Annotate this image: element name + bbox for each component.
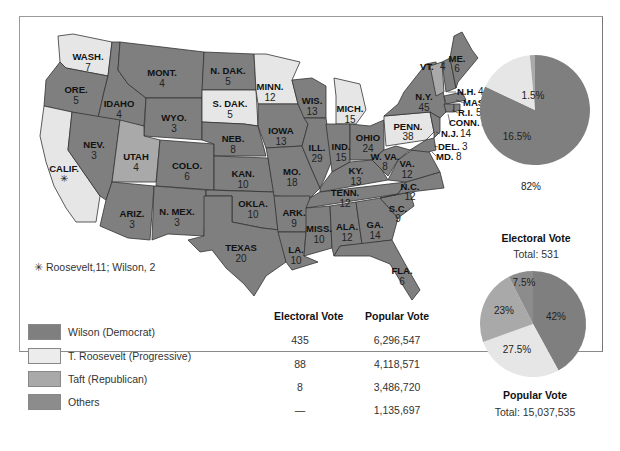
svg-text:N.Y.: N.Y. — [415, 91, 432, 102]
legend-item-wilson: Wilson (Democrat) — [28, 324, 208, 342]
legend-item-others: Others — [28, 394, 208, 412]
svg-text:13: 13 — [350, 176, 362, 187]
svg-text:27.5%: 27.5% — [503, 344, 531, 355]
svg-text:KAN.: KAN. — [231, 168, 254, 179]
popular-others: 1,135,697 — [362, 404, 432, 416]
legend-label: Others — [68, 396, 100, 408]
svg-text:5: 5 — [227, 109, 233, 120]
legend-label: Taft (Republican) — [68, 373, 147, 385]
svg-text:8: 8 — [230, 144, 236, 155]
svg-text:12: 12 — [401, 169, 413, 180]
svg-text:8: 8 — [456, 151, 462, 162]
svg-text:82%: 82% — [521, 181, 541, 192]
popular-roosevelt: 4,118,571 — [362, 358, 432, 370]
svg-text:10: 10 — [290, 255, 302, 266]
svg-text:CONN.: CONN. — [449, 117, 480, 128]
svg-text:4: 4 — [159, 78, 165, 89]
svg-text:N.J.: N.J. — [441, 128, 458, 139]
svg-text:10: 10 — [237, 179, 249, 190]
svg-text:13: 13 — [275, 136, 287, 147]
svg-text:OHIO: OHIO — [356, 132, 380, 143]
svg-text:3: 3 — [129, 219, 135, 230]
svg-text:6: 6 — [454, 63, 460, 74]
electoral-roosevelt: 88 — [280, 358, 320, 370]
svg-text:ILL.: ILL. — [309, 142, 326, 153]
popular-taft: 3,486,720 — [362, 381, 432, 393]
electoral-taft: 8 — [280, 381, 320, 393]
svg-text:7.5%: 7.5% — [513, 277, 536, 288]
svg-text:WASH.: WASH. — [72, 51, 103, 62]
svg-text:NEV.: NEV. — [83, 139, 104, 150]
svg-text:20: 20 — [235, 253, 247, 264]
svg-text:38: 38 — [402, 131, 414, 142]
svg-text:N. DAK.: N. DAK. — [210, 65, 245, 76]
popular-vote-header: Popular Vote — [365, 310, 429, 322]
svg-text:4: 4 — [440, 61, 446, 72]
popular-wilson: 6,296,547 — [362, 334, 432, 346]
popular-pie-title: Popular Vote — [465, 389, 605, 401]
svg-text:LA.: LA. — [288, 244, 303, 255]
svg-text:4: 4 — [133, 162, 139, 173]
legend-item-roosevelt: T. Roosevelt (Progressive) — [28, 348, 208, 366]
svg-text:ARK.: ARK. — [282, 207, 305, 218]
electoral-pie-total: Total: 531 — [466, 248, 606, 260]
svg-text:15: 15 — [344, 114, 356, 125]
legend-swatch-roosevelt — [28, 348, 61, 364]
svg-text:9: 9 — [291, 218, 297, 229]
legend-label: Wilson (Democrat) — [68, 326, 155, 338]
svg-text:12: 12 — [341, 232, 353, 243]
svg-text:10: 10 — [247, 209, 259, 220]
state-conn — [444, 104, 454, 112]
svg-text:NEB.: NEB. — [222, 133, 245, 144]
svg-text:MISS.: MISS. — [306, 223, 332, 234]
svg-text:23%: 23% — [494, 305, 514, 316]
svg-text:KY.: KY. — [349, 165, 364, 176]
svg-text:MONT.: MONT. — [147, 67, 177, 78]
svg-text:3: 3 — [91, 150, 97, 161]
svg-text:MICH.: MICH. — [337, 103, 364, 114]
svg-text:7: 7 — [85, 62, 91, 73]
svg-text:FLA.: FLA. — [391, 265, 412, 276]
svg-text:15: 15 — [335, 152, 347, 163]
svg-text:✳: ✳ — [60, 173, 68, 184]
svg-text:IDAHO: IDAHO — [104, 98, 135, 109]
popular-vote-pie: 42% 27.5% 23% 7.5% — [480, 271, 586, 377]
svg-text:14: 14 — [460, 128, 472, 139]
svg-text:MO.: MO. — [283, 166, 301, 177]
svg-text:WYO.: WYO. — [161, 112, 186, 123]
svg-text:VA.: VA. — [399, 158, 414, 169]
svg-text:VT.: VT. — [420, 61, 434, 72]
svg-text:18: 18 — [286, 177, 298, 188]
state-minn — [254, 54, 300, 104]
svg-text:TEXAS: TEXAS — [225, 242, 257, 253]
svg-text:9: 9 — [395, 213, 401, 224]
california-footnote: ✳ Roosevelt,11; Wilson, 2 — [34, 261, 155, 273]
svg-text:14: 14 — [369, 230, 381, 241]
svg-text:OKLA.: OKLA. — [238, 198, 268, 209]
svg-text:45: 45 — [418, 102, 430, 113]
electoral-wilson: 435 — [280, 334, 320, 346]
electoral-pie-title: Electoral Vote — [466, 232, 606, 244]
svg-text:IND.: IND. — [332, 141, 351, 152]
svg-text:S. DAK.: S. DAK. — [213, 98, 248, 109]
svg-text:ARIZ.: ARIZ. — [120, 208, 145, 219]
svg-text:10: 10 — [313, 234, 325, 245]
electoral-others: — — [280, 404, 320, 416]
svg-text:ORE.: ORE. — [64, 84, 87, 95]
svg-text:MINN.: MINN. — [257, 81, 284, 92]
legend-swatch-taft — [28, 371, 61, 387]
svg-text:IOWA: IOWA — [268, 125, 293, 136]
svg-text:29: 29 — [311, 153, 323, 164]
svg-text:6: 6 — [184, 171, 190, 182]
electoral-vote-pie: 82% 16.5% 1.5% — [480, 55, 590, 192]
svg-text:5: 5 — [73, 95, 79, 106]
svg-text:3: 3 — [174, 217, 180, 228]
svg-text:3: 3 — [171, 123, 177, 134]
svg-text:16.5%: 16.5% — [503, 131, 531, 142]
svg-text:12: 12 — [339, 198, 351, 209]
svg-text:6: 6 — [399, 276, 405, 287]
svg-text:WIS.: WIS. — [302, 95, 323, 106]
legend-item-taft: Taft (Republican) — [28, 371, 208, 389]
svg-text:N.H.: N.H. — [457, 86, 476, 97]
popular-pie-total: Total: 15,037,535 — [465, 406, 605, 418]
